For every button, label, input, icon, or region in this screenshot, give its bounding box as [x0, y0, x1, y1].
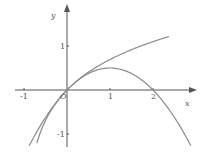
y-tick-label: -1 — [57, 130, 65, 139]
function-plot: x y O -1121-1 — [0, 0, 202, 160]
x-axis-label: x — [185, 99, 190, 108]
y-axis-label: y — [50, 11, 56, 20]
curve-parabola — [29, 68, 191, 146]
x-axis-arrow-icon — [189, 87, 197, 93]
x-tick-label: 2 — [151, 92, 156, 101]
x-tick-label: 1 — [108, 92, 113, 101]
origin-label: O — [60, 92, 67, 101]
x-tick-label: -1 — [20, 92, 28, 101]
y-tick-label: 1 — [60, 42, 65, 51]
axes — [15, 4, 197, 147]
y-axis-arrow-icon — [64, 4, 70, 12]
